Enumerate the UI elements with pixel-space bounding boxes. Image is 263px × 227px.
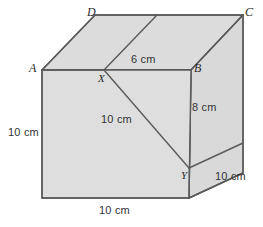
dimension-label-xb: 6 cm	[131, 54, 156, 65]
vertex-label-a: A	[29, 62, 37, 74]
vertex-label-d: D	[87, 6, 96, 18]
vertex-label-b: B	[194, 62, 202, 74]
dimension-label-bottom-width: 10 cm	[99, 205, 130, 216]
vertex-label-y: Y	[181, 170, 187, 181]
vertex-label-x: X	[98, 73, 105, 84]
dimension-label-xy: 10 cm	[101, 114, 132, 125]
vertex-label-c: C	[245, 6, 253, 18]
dimension-label-left-height: 10 cm	[8, 127, 39, 138]
dimension-label-depth: 10 cm	[215, 171, 246, 182]
dimension-label-by: 8 cm	[192, 102, 217, 113]
cube-diagram: A B C D X Y 6 cm 8 cm 10 cm 10 cm 10 cm …	[0, 0, 263, 227]
